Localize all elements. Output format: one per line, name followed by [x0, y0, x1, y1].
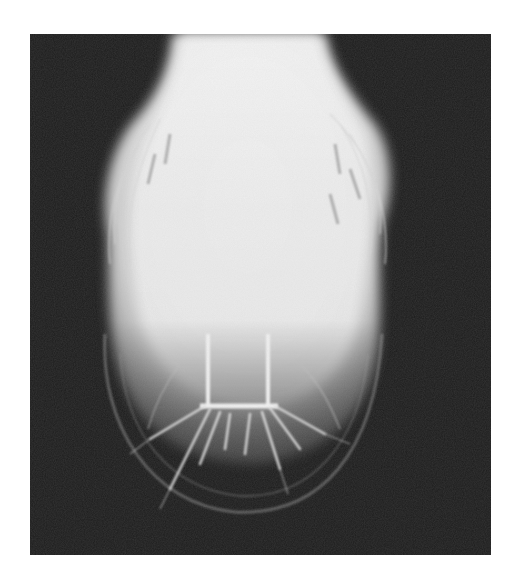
- radiograph-graphic: [30, 34, 491, 555]
- radiograph-image: [30, 34, 491, 555]
